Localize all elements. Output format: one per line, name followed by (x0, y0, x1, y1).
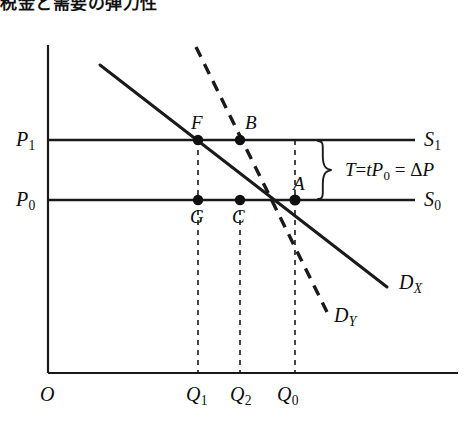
curve-label-dx: DX (399, 272, 422, 295)
y-tick-label-p1: P1 (16, 129, 35, 152)
curve-label-s1: S1 (424, 129, 441, 152)
origin-label: O (40, 384, 54, 404)
point-label-f: F (191, 113, 203, 132)
x-tick-label-q0: Q0 (277, 384, 299, 407)
tax-annotation: T=tP0 = ΔP (345, 160, 434, 183)
figure-page: 税金と需要の弾力性 P1 P0 O (0, 0, 476, 429)
curve-label-dy: DY (334, 305, 356, 328)
demand-curve-dy (196, 47, 327, 312)
point-g-marker (193, 195, 203, 205)
point-b-marker (235, 135, 245, 145)
point-label-b: B (245, 113, 257, 132)
point-label-c: C (232, 207, 245, 226)
tax-brace (318, 141, 331, 199)
point-c-marker (235, 195, 245, 205)
point-f-marker (193, 135, 203, 145)
point-label-a: A (293, 174, 305, 193)
x-tick-label-q2: Q2 (230, 384, 252, 407)
point-a-marker (289, 194, 300, 205)
demand-curve-dx (100, 65, 387, 287)
point-label-g: G (190, 207, 204, 226)
curve-label-s0: S0 (424, 189, 441, 212)
x-tick-label-q1: Q1 (186, 384, 208, 407)
y-tick-label-p0: P0 (16, 189, 35, 212)
